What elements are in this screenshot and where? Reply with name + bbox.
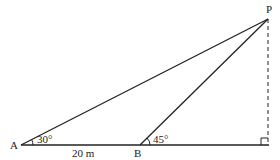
point-label-B: B [134, 147, 141, 159]
line-BP [140, 19, 268, 145]
angle-label-A: 30° [37, 133, 52, 145]
geometry-diagram: A B P 30° 45° 20 m [0, 0, 280, 160]
point-label-P: P [266, 3, 272, 15]
angle-arc-B [147, 138, 150, 145]
length-label-AB: 20 m [72, 147, 95, 159]
line-AP [21, 19, 268, 145]
right-angle-marker [261, 138, 268, 145]
point-label-A: A [10, 139, 18, 151]
angle-label-B: 45° [153, 133, 168, 145]
angle-arc-A [32, 140, 33, 145]
